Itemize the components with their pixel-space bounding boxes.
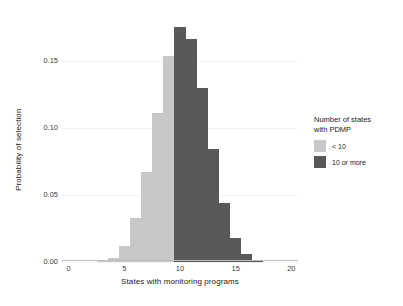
bar	[174, 27, 185, 262]
x-tick-label-4: 20	[279, 264, 303, 274]
bar	[163, 56, 174, 262]
legend-label-0: < 10	[332, 143, 346, 150]
chart-figure: Probability of selection 0.000.050.100.1…	[0, 0, 403, 306]
bar	[186, 39, 197, 262]
gridline-y-0	[62, 262, 298, 263]
legend: Number of states with PDMP < 1010 or mor…	[314, 115, 400, 171]
bar	[219, 203, 230, 262]
bars-layer	[62, 18, 298, 262]
x-axis-tick-labels: 05101520	[0, 264, 403, 276]
legend-items: < 1010 or more	[314, 139, 400, 169]
x-tick-label-3: 15	[224, 264, 248, 274]
y-axis-tick-labels: 0.000.050.100.15	[26, 0, 58, 306]
bar	[230, 238, 241, 262]
legend-title-line-1: Number of states	[314, 115, 394, 125]
x-axis-title: States with monitoring programs	[62, 277, 298, 286]
x-tick-label-1: 5	[112, 264, 136, 274]
y-tick-label-1: 0.05	[30, 191, 58, 199]
legend-title-line-2: with PDMP	[314, 125, 394, 135]
x-axis-line	[62, 260, 298, 261]
bar	[152, 113, 163, 262]
y-tick-label-3: 0.15	[30, 57, 58, 65]
x-tick-label-2: 10	[168, 264, 192, 274]
y-tick-label-2: 0.10	[30, 124, 58, 132]
legend-item-0: < 10	[314, 139, 400, 153]
bar	[208, 149, 219, 262]
legend-swatch-0	[314, 140, 326, 152]
bar	[141, 172, 152, 262]
legend-label-1: 10 or more	[332, 159, 366, 166]
x-tick-label-0: 0	[57, 264, 81, 274]
bar	[130, 218, 141, 262]
legend-title: Number of states with PDMP	[314, 115, 394, 134]
legend-swatch-1	[314, 156, 326, 168]
bar	[197, 88, 208, 262]
legend-item-1: 10 or more	[314, 155, 400, 169]
plot-panel	[62, 18, 298, 262]
